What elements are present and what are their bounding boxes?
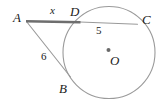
measure-label-ab: 6	[41, 51, 47, 62]
vertex-label-b: B	[59, 82, 67, 95]
geometry-diagram: A D C B O x 5 6	[0, 0, 163, 105]
center-point-dot	[107, 48, 111, 52]
segment-AD	[26, 21, 81, 22]
geometry-canvas	[0, 0, 163, 105]
vertex-label-c: C	[142, 13, 151, 26]
measure-label-ad: x	[50, 5, 55, 16]
center-label-o: O	[110, 54, 119, 67]
measure-label-dc: 5	[96, 25, 102, 36]
segment-AB	[27, 22, 71, 78]
vertex-label-a: A	[13, 11, 21, 24]
segment-DC	[80, 22, 138, 24]
vertex-label-d: D	[70, 5, 79, 18]
